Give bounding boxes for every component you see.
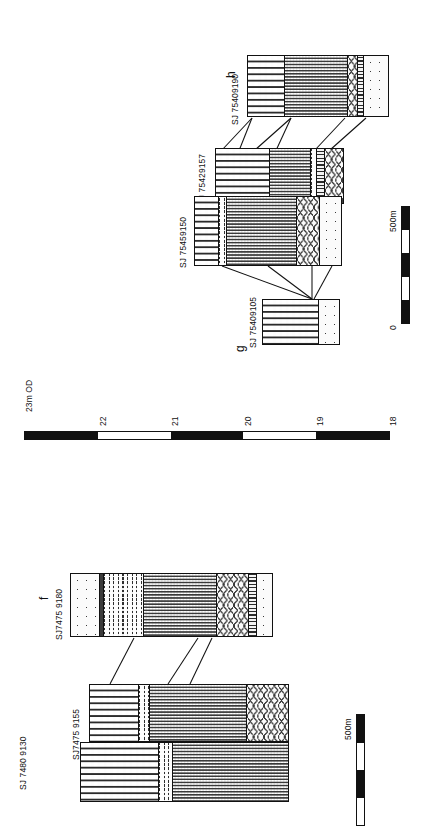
bed-sand (269, 149, 310, 203)
scalebar-segment (402, 230, 409, 253)
scalebar-segment (402, 300, 409, 323)
borehole-label-sj7480-9130: SJ 7480 9130 (18, 736, 28, 790)
elevation-tick-21: 21 (170, 416, 180, 426)
scalebar-segment (402, 277, 409, 300)
borehole-label-sj75409190: SJ 75409190 (230, 74, 240, 125)
bed-gravel (363, 56, 388, 116)
elevation-tick-20: 20 (243, 416, 253, 426)
bed-till (324, 149, 343, 203)
bed-wavy (218, 197, 225, 265)
bed-gravel (319, 197, 341, 265)
scalebar-left-label-500: 500m (343, 718, 353, 740)
bed-wavy (138, 685, 150, 741)
bed-peat (81, 743, 158, 801)
bed-sand (226, 197, 296, 265)
bed-peat (195, 197, 218, 265)
borehole-log-sj75409190[interactable] (247, 55, 389, 117)
bed-sand (172, 743, 288, 801)
bed-till (347, 56, 357, 116)
bed-gravel (256, 574, 272, 636)
bed-till (216, 574, 248, 636)
elevation-segment (316, 432, 389, 439)
bed-wavy (103, 574, 143, 636)
elevation-tick-18: 18 (388, 416, 398, 426)
elevation-segment (98, 432, 171, 439)
bed-lamina (316, 149, 324, 203)
bed-sand (143, 574, 215, 636)
borehole-log-sj7480-9130[interactable] (80, 742, 289, 802)
elevation-tick-23: 23m OD (24, 380, 34, 412)
scalebar-segment (357, 770, 364, 798)
bed-sand (149, 685, 246, 741)
scalebar-segment (357, 743, 364, 771)
bed-wavy (158, 743, 172, 801)
section-marker-g: g (233, 345, 247, 352)
scalebar-segment (402, 207, 409, 230)
bed-peat (90, 685, 138, 741)
borehole-log-sj75409105[interactable] (262, 299, 340, 345)
scalebar-segment (357, 798, 364, 826)
borehole-log-sj75459150[interactable] (194, 196, 342, 266)
scalebar-right-label-500: 500m (388, 210, 398, 232)
scalebar-left (356, 714, 365, 826)
bed-peat (263, 300, 318, 344)
scalebar-segment (357, 715, 364, 743)
bed-sand (284, 56, 347, 116)
borehole-log-sj7475-9155[interactable] (89, 684, 289, 742)
borehole-label-sj75459150: SJ 75459150 (178, 217, 188, 268)
elevation-tick-19: 19 (315, 416, 325, 426)
bed-till (296, 197, 319, 265)
elevation-scalebar (24, 431, 390, 440)
elevation-segment (171, 432, 244, 439)
bed-gravel (71, 574, 99, 636)
scalebar-segment (402, 253, 409, 276)
bed-till (246, 685, 288, 741)
section-marker-f: f (37, 597, 51, 600)
elevation-segment (25, 432, 98, 439)
elevation-tick-22: 22 (98, 416, 108, 426)
bed-peat (216, 149, 269, 203)
scalebar-right-label-0: 0 (388, 325, 398, 330)
scalebar-right (401, 206, 410, 324)
bed-lamina (248, 574, 256, 636)
bed-gravel (318, 300, 339, 344)
borehole-label-sj7475-9180: SJ7475 9180 (54, 589, 64, 640)
borehole-log-sj7475-9180[interactable] (70, 573, 273, 637)
elevation-segment (243, 432, 316, 439)
borehole-label-sj75409105: SJ 75409105 (248, 297, 258, 348)
bed-peat (248, 56, 284, 116)
